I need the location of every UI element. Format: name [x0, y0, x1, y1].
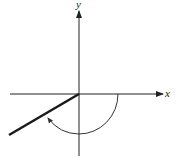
angle-diagram: x y [0, 0, 177, 163]
angle-arc-clockwise [48, 94, 118, 134]
terminal-side-ray [9, 94, 79, 135]
x-axis-label: x [164, 87, 170, 99]
y-axis-label: y [75, 0, 81, 10]
